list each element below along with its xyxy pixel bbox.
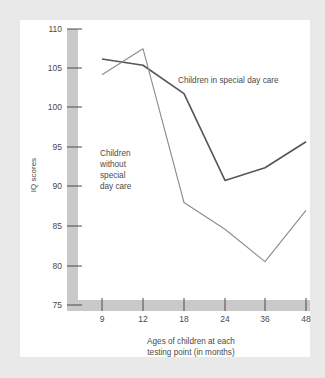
series-annotation-without-line1: Children: [100, 149, 131, 158]
y-tick-label-75: 75: [53, 300, 63, 310]
x-axis-title-line2: testing point (in months): [147, 348, 235, 357]
y-axis-title: IQ scores: [29, 158, 38, 192]
y-tick-label-110: 110: [48, 24, 62, 34]
y-tick-label-105: 105: [48, 63, 62, 73]
y-tick-label-100: 100: [48, 102, 62, 112]
x-tick-label-18: 18: [179, 314, 189, 324]
x-tick-label-12: 12: [138, 314, 148, 324]
axis-band: [67, 29, 310, 311]
chart-page: 110 105 100 95 90 85 80 75 IQ scores 9 1…: [0, 0, 325, 378]
y-tick-label-85: 85: [53, 221, 63, 231]
x-tick-label-24: 24: [220, 314, 230, 324]
x-axis-title-line1: Ages of children at each: [147, 337, 235, 346]
series-annotation-without-line3: special: [100, 171, 126, 180]
series-annotation-without-line2: without: [99, 160, 127, 169]
line-chart: 110 105 100 95 90 85 80 75 IQ scores 9 1…: [0, 0, 325, 378]
series-annotation-special-day-care: Children in special day care: [178, 76, 279, 85]
y-tick-label-95: 95: [53, 142, 63, 152]
x-tick-label-9: 9: [100, 314, 105, 324]
x-tick-label-48: 48: [301, 314, 311, 324]
y-tick-label-80: 80: [53, 261, 63, 271]
x-tick-label-36: 36: [260, 314, 270, 324]
y-tick-label-90: 90: [53, 181, 63, 191]
series-annotation-without-line4: day care: [100, 182, 132, 191]
